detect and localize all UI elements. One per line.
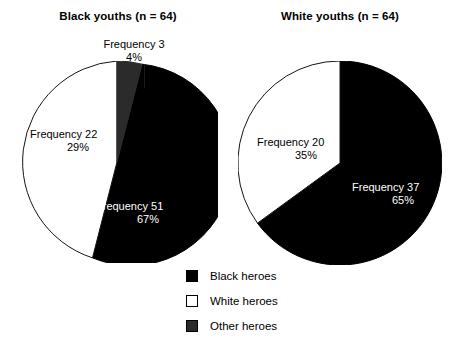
legend-item-white-heroes[interactable]: White heroes xyxy=(186,288,356,313)
slice-label-black-heroes-right: Frequency 37 65% xyxy=(352,181,454,207)
slice-label-white-heroes-right: Frequency 20 35% xyxy=(257,136,363,162)
legend-item-black-heroes[interactable]: Black heroes xyxy=(186,263,356,288)
slice-label-black-right-pct: 65% xyxy=(352,194,454,207)
slice-label-black-left-pct: 67% xyxy=(96,213,200,226)
legend-swatch-black-heroes xyxy=(186,270,198,282)
legend-swatch-white-heroes xyxy=(186,295,198,307)
pie-chart-figure: Black youths (n = 64) White youths (n = … xyxy=(0,0,454,352)
chart-title-black-youths: Black youths (n = 64) xyxy=(0,10,236,22)
callout-leader-line xyxy=(144,64,145,88)
pie-chart-white-youths xyxy=(238,61,442,265)
slice-label-white-left-pct: 29% xyxy=(30,141,126,154)
slice-label-other-left-name: Frequency 3 xyxy=(103,38,164,50)
slice-label-black-left-name: Frequency 51 xyxy=(96,200,163,212)
pie-right-svg xyxy=(238,61,442,265)
legend: Black heroes White heroes Other heroes xyxy=(186,263,356,338)
slice-label-white-right-pct: 35% xyxy=(257,149,355,162)
slice-label-black-right-name: Frequency 37 xyxy=(352,181,419,193)
slice-label-white-heroes-left: Frequency 22 29% xyxy=(30,128,134,154)
legend-label-black-heroes: Black heroes xyxy=(210,270,276,282)
pie-left-svg xyxy=(16,61,218,263)
slice-label-other-left-pct: 4% xyxy=(84,51,184,64)
slice-label-white-right-name: Frequency 20 xyxy=(257,136,324,148)
legend-label-white-heroes: White heroes xyxy=(210,295,278,307)
slice-label-white-left-name: Frequency 22 xyxy=(30,128,97,140)
legend-swatch-other-heroes xyxy=(186,320,198,332)
slice-label-other-heroes-left: Frequency 3 4% xyxy=(84,38,184,64)
slice-label-black-heroes-left: Frequency 51 67% xyxy=(96,200,208,226)
legend-label-other-heroes: Other heroes xyxy=(210,320,277,332)
pie-chart-black-youths xyxy=(16,61,218,263)
chart-title-white-youths: White youths (n = 64) xyxy=(222,10,454,22)
legend-item-other-heroes[interactable]: Other heroes xyxy=(186,313,356,338)
